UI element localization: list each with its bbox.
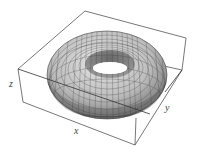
- torus-3d-plot: [0, 0, 200, 157]
- y-axis-label: y: [165, 103, 169, 113]
- x-axis-label: x: [74, 126, 78, 136]
- z-axis-label: z: [9, 79, 13, 89]
- torus-surface: [47, 31, 167, 119]
